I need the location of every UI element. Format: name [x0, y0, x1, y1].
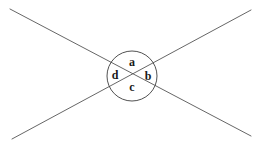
diagram-canvas: a b c d — [0, 0, 264, 149]
angle-label-c: c — [129, 80, 135, 94]
angle-label-b: b — [145, 69, 152, 83]
angle-label-d: d — [112, 68, 119, 82]
angle-diagram-figure: a b c d — [0, 0, 264, 149]
angle-label-a: a — [129, 55, 135, 69]
